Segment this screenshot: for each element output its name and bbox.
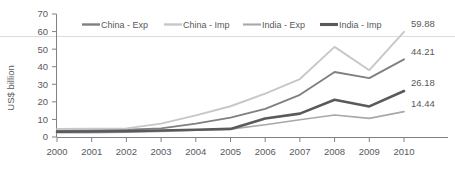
x-tick-label: 2001 — [81, 146, 102, 157]
chart-legend: China - ExpChina - ImpIndia - ExpIndia -… — [82, 20, 382, 30]
y-tick-label: 10 — [37, 114, 48, 125]
legend-label-0[interactable]: China - Exp — [101, 20, 148, 30]
x-tick-label: 2010 — [393, 146, 414, 157]
series-end-label-0: 44.21 — [411, 46, 435, 57]
series-lines-group — [57, 32, 404, 133]
legend-label-3[interactable]: India - Imp — [339, 20, 382, 30]
legend-label-2[interactable]: India - Exp — [262, 20, 305, 30]
y-axis-ticks — [52, 14, 57, 137]
y-tick-label: 60 — [37, 26, 48, 37]
line-chart: 010203040506070 200020012002200320042005… — [0, 0, 455, 169]
x-tick-label: 2000 — [46, 146, 67, 157]
series-end-label-1: 59.88 — [411, 18, 435, 29]
series-line-1 — [57, 32, 404, 129]
legend-label-1[interactable]: China - Imp — [183, 20, 230, 30]
y-tick-label: 70 — [37, 8, 48, 19]
y-tick-label: 20 — [37, 96, 48, 107]
x-tick-label: 2003 — [151, 146, 172, 157]
chart-canvas: 010203040506070 200020012002200320042005… — [0, 0, 455, 169]
x-tick-label: 2009 — [359, 146, 380, 157]
y-axis-tick-labels: 010203040506070 — [37, 8, 48, 142]
x-axis-tick-labels: 2000200120022003200420052006200720082009… — [46, 146, 414, 157]
x-tick-label: 2002 — [116, 146, 137, 157]
y-axis-title: US$ billion — [5, 65, 16, 110]
x-axis-ticks — [57, 138, 404, 143]
series-end-label-3: 26.18 — [411, 77, 435, 88]
series-line-0 — [57, 59, 404, 130]
series-end-label-2: 14.44 — [411, 98, 435, 109]
y-tick-label: 30 — [37, 79, 48, 90]
series-line-3 — [57, 91, 404, 132]
x-tick-label: 2007 — [289, 146, 310, 157]
y-tick-label: 40 — [37, 61, 48, 72]
x-tick-label: 2006 — [255, 146, 276, 157]
x-tick-label: 2008 — [324, 146, 345, 157]
y-tick-label: 50 — [37, 44, 48, 55]
series-end-labels-group: 44.2159.8814.4426.18 — [411, 18, 435, 109]
x-tick-label: 2004 — [185, 146, 206, 157]
x-tick-label: 2005 — [220, 146, 241, 157]
y-tick-label: 0 — [43, 131, 48, 142]
